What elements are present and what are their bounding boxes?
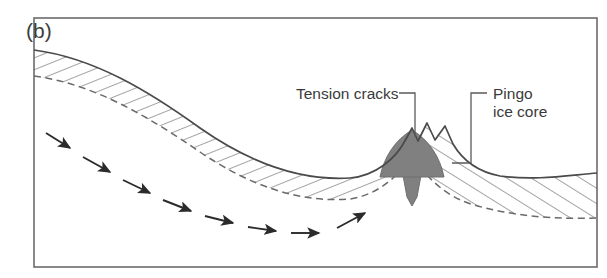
tension-cracks-label: Tension cracks [296,85,399,102]
diagram-frame [34,18,597,267]
pingo-ice-core-label-line-1: Pingo [493,85,533,102]
panel-label: (b) [26,19,52,42]
pingo-ice-core-label-line-2: ice core [493,103,547,120]
figure-container: (b) Tension cracks Pingo ice core [0,0,607,278]
pingo-cross-section-diagram: (b) Tension cracks Pingo ice core [0,0,607,278]
